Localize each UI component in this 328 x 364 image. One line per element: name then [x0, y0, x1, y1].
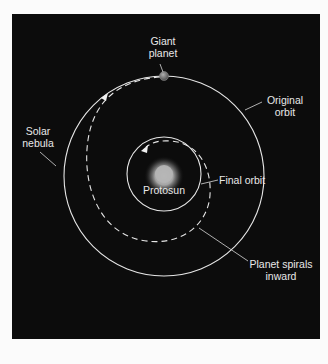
spiral-label: Planet spirals inward	[246, 258, 316, 282]
leader-giant-planet	[160, 64, 163, 72]
original-orbit-label: Original orbit	[262, 94, 308, 118]
giant-planet-label: Giant planet	[138, 35, 188, 59]
final-orbit-label: Final orbit	[219, 174, 265, 186]
protosun-icon	[155, 165, 173, 183]
giant-planet-icon	[160, 72, 169, 81]
protosun-label: Protosun	[140, 184, 188, 196]
solar-nebula-label: Solar nebula	[16, 125, 60, 149]
arrow-inner-icon	[141, 145, 148, 153]
spiral-path	[87, 77, 210, 242]
leader-original-orbit	[245, 102, 262, 110]
leader-solar-nebula	[40, 152, 56, 166]
